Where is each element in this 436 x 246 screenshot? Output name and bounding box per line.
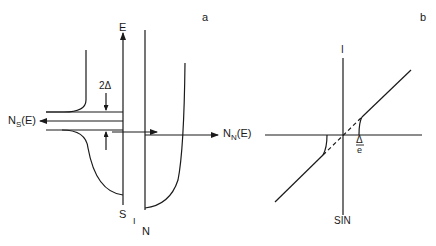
energy-axis-label: E [119, 22, 126, 33]
superconductor-dos-upper [46, 50, 86, 112]
normal-metal-label: N [142, 226, 150, 237]
diagram-canvas [0, 0, 436, 246]
superconductor-label: S [119, 209, 126, 220]
junction-label: SIN [334, 216, 351, 226]
gap-label: 2Δ [99, 81, 111, 91]
gap-voltage-denominator: e [357, 146, 362, 155]
panel-a-label: a [202, 12, 208, 23]
panel-b-label: b [420, 12, 426, 23]
ns-main: N [8, 114, 16, 126]
ns-tail: (E) [21, 114, 36, 126]
iv-curve-lower-onset [323, 135, 327, 155]
ns-axis-label: NS(E) [8, 115, 36, 129]
nn-tail: (E) [237, 127, 252, 139]
current-axis-label: I [341, 45, 344, 55]
gap-voltage-numerator: Δ [356, 135, 363, 145]
superconductor-dos-lower [62, 130, 123, 195]
iv-curve-upper-linear [362, 70, 411, 117]
nn-axis-label: NN(E) [223, 128, 251, 142]
insulator-label: I [133, 217, 136, 226]
nn-main: N [223, 127, 231, 139]
iv-curve-lower-linear [275, 155, 323, 202]
